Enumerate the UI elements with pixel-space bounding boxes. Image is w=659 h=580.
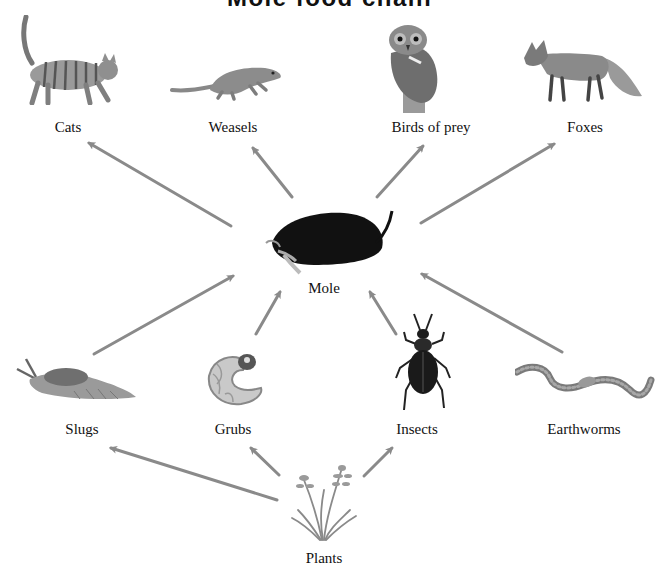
node-label-insects: Insects (396, 421, 438, 438)
node-label-birds-of-prey: Birds of prey (391, 119, 470, 136)
node-label-grubs: Grubs (215, 421, 252, 438)
owl-icon (383, 25, 448, 113)
slug-icon (14, 355, 138, 410)
weasel-icon (170, 58, 285, 103)
arrow-plants-to-grubs (251, 448, 279, 475)
arrow-mole-to-weasels (253, 148, 292, 197)
node-label-foxes: Foxes (567, 119, 603, 136)
arrow-mole-to-birds (377, 146, 423, 197)
arrow-plants-to-insects (364, 448, 392, 476)
beetle-icon (392, 312, 454, 412)
node-label-slugs: Slugs (65, 421, 98, 438)
arrow-mole-to-foxes (421, 144, 554, 223)
mole-icon (264, 203, 399, 275)
fox-icon (522, 38, 644, 103)
cat-icon (18, 15, 123, 105)
node-label-mole: Mole (308, 280, 340, 297)
arrow-plants-to-slugs (111, 448, 277, 500)
node-label-plants: Plants (306, 550, 343, 567)
earthworm-icon (515, 360, 655, 405)
node-label-earthworms: Earthworms (547, 421, 620, 438)
arrow-grubs-to-mole (256, 292, 280, 334)
grub-icon (203, 348, 265, 410)
node-label-cats: Cats (55, 119, 82, 136)
node-label-weasels: Weasels (209, 119, 258, 136)
arrow-slugs-to-mole (94, 276, 233, 354)
grass-icon (290, 460, 360, 542)
arrow-mole-to-cats (89, 143, 231, 226)
